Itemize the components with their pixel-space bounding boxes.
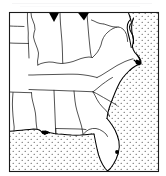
- marker-dot-south-florida: [115, 150, 119, 154]
- southeast-us-map: [0, 0, 166, 176]
- ocean-stipple: [10, 13, 159, 172]
- map-figure: Outline map of the southeastern United S…: [0, 0, 166, 176]
- border-ar-west: [10, 26, 24, 27]
- border-ar-mo: [10, 43, 29, 44]
